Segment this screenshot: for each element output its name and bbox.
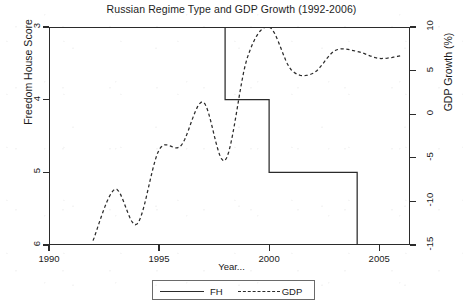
- y-axis-right-tick: [410, 201, 416, 202]
- legend-item-gdp: GDP: [238, 286, 303, 297]
- y-axis-right-tick-label: -5: [424, 146, 435, 166]
- y-axis-left-tick-label: 3: [31, 16, 42, 36]
- y-axis-left-tick: [43, 26, 49, 27]
- y-axis-right-tick-label: -15: [424, 234, 435, 254]
- x-axis-tick-label: 2000: [249, 253, 289, 264]
- x-axis-tick: [158, 245, 159, 251]
- y-axis-left-tick-label: 4: [31, 88, 42, 108]
- x-axis-tick-label: 1990: [29, 253, 69, 264]
- y-axis-right-tick: [410, 244, 416, 245]
- legend-label-gdp: GDP: [282, 286, 303, 297]
- legend: FH GDP: [152, 280, 315, 300]
- x-axis-tick-label: 1995: [139, 253, 179, 264]
- y-axis-left-tick: [43, 99, 49, 100]
- y-axis-left-tick-label: 5: [31, 161, 42, 181]
- y-axis-right-tick: [410, 70, 416, 71]
- series-line-fh: [93, 27, 401, 245]
- y-axis-right-tick-label: 5: [424, 59, 435, 79]
- y-axis-right-tick-label: -10: [424, 190, 435, 210]
- y-axis-right-tick-label: 0: [424, 103, 435, 123]
- y-axis-right-tick: [410, 114, 416, 115]
- plot-lines: [49, 27, 410, 245]
- y-axis-right-tick-label: 10: [424, 16, 435, 36]
- series-line-gdp: [93, 27, 401, 241]
- x-axis-tick: [379, 245, 380, 251]
- dashed-line-icon: [238, 291, 280, 292]
- x-axis-tick-label: 2005: [359, 253, 399, 264]
- legend-label-fh: FH: [210, 286, 223, 297]
- legend-item-fh: FH: [160, 286, 223, 297]
- x-axis-tick: [269, 245, 270, 251]
- y-axis-left-tick-label: 6: [31, 234, 42, 254]
- y-axis-right-title: GDP Growth (%): [442, 0, 454, 152]
- x-axis-tick: [48, 245, 49, 251]
- solid-line-icon: [160, 291, 204, 292]
- y-axis-right-tick: [410, 26, 416, 27]
- chart-figure: Russian Regime Type and GDP Growth (1992…: [0, 0, 463, 305]
- page-title: Russian Regime Type and GDP Growth (1992…: [0, 3, 463, 15]
- y-axis-right-tick: [410, 157, 416, 158]
- y-axis-left-tick: [43, 172, 49, 173]
